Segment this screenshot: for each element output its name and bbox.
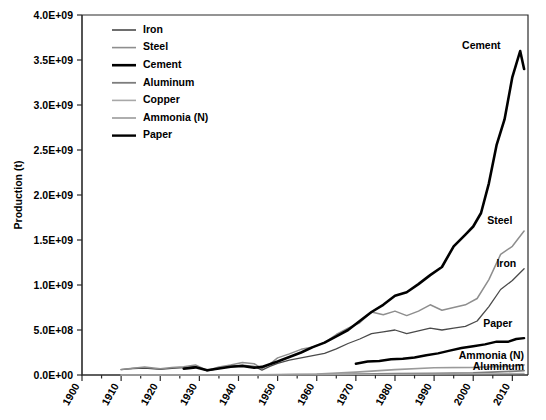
legend-label-iron: Iron bbox=[143, 23, 163, 35]
y-tick-label: 3.0E+09 bbox=[34, 99, 74, 111]
production-line-chart: 0.0E+005.0E+081.0E+091.5E+092.0E+092.5E+… bbox=[0, 0, 546, 420]
inline-label-cement: Cement bbox=[462, 39, 501, 51]
y-tick-label: 1.0E+09 bbox=[34, 279, 74, 291]
y-tick-label: 5.0E+08 bbox=[34, 324, 74, 336]
y-tick-label: 2.5E+09 bbox=[34, 144, 74, 156]
legend-label-cement: Cement bbox=[143, 58, 182, 70]
y-tick-label: 2.0E+09 bbox=[34, 189, 74, 201]
inline-label-iron: Iron bbox=[496, 257, 516, 269]
legend-label-paper: Paper bbox=[143, 128, 172, 140]
chart-canvas: 0.0E+005.0E+081.0E+091.5E+092.0E+092.5E+… bbox=[0, 0, 546, 420]
y-tick-label: 1.5E+09 bbox=[34, 234, 74, 246]
inline-label-steel: Steel bbox=[487, 214, 512, 226]
legend-label-ammonia-n: Ammonia (N) bbox=[143, 111, 208, 123]
y-tick-label: 3.5E+09 bbox=[34, 54, 74, 66]
legend-label-steel: Steel bbox=[143, 40, 168, 52]
y-tick-label: 4.0E+09 bbox=[34, 9, 74, 21]
y-tick-label: 0.0E+00 bbox=[34, 369, 74, 381]
y-axis-title: Production (t) bbox=[12, 161, 24, 230]
inline-label-aluminum: Aluminum bbox=[473, 360, 524, 372]
inline-label-paper: Paper bbox=[483, 317, 512, 329]
legend-label-aluminum: Aluminum bbox=[143, 76, 194, 88]
axis-titles: Production (t) bbox=[12, 161, 24, 230]
legend-label-copper: Copper bbox=[143, 93, 180, 105]
